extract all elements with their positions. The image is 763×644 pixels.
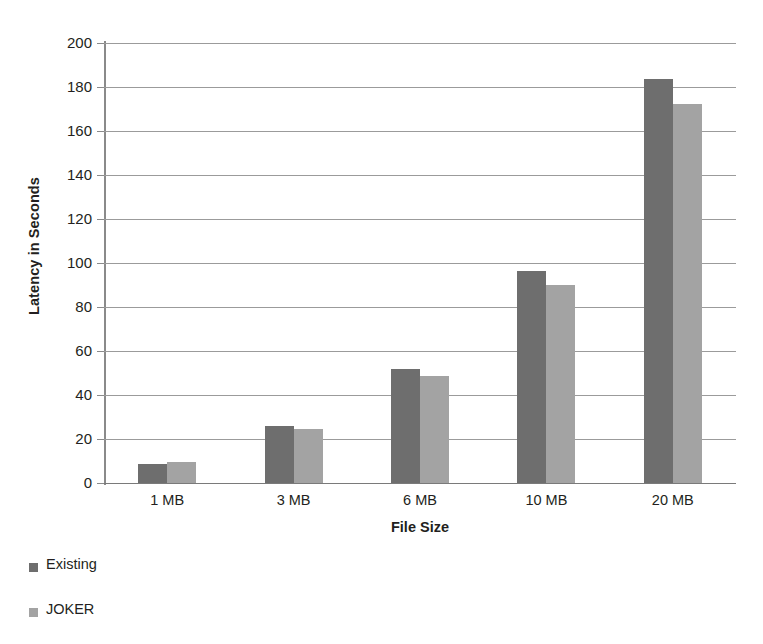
y-tick-mark-120 <box>97 219 104 220</box>
bar-existing-10mb <box>517 271 546 483</box>
legend-label-existing: Existing <box>46 556 97 572</box>
y-tick-mark-140 <box>97 175 104 176</box>
y-tick-label-0: 0 <box>48 475 92 490</box>
bar-existing-20mb <box>644 79 673 483</box>
legend-label-joker: JOKER <box>46 601 94 617</box>
x-tick-label-1mb: 1 MB <box>122 492 212 508</box>
x-tick-label-3mb: 3 MB <box>249 492 339 508</box>
gridline-0 <box>104 483 736 484</box>
bar-existing-6mb <box>391 369 420 483</box>
y-tick-label-200: 200 <box>48 35 92 50</box>
y-tick-mark-80 <box>97 307 104 308</box>
bar-joker-10mb <box>546 285 575 483</box>
y-tick-label-40: 40 <box>48 387 92 402</box>
bar-joker-6mb <box>420 376 449 483</box>
y-tick-label-80: 80 <box>48 299 92 314</box>
y-tick-mark-100 <box>97 263 104 264</box>
legend-swatch-icon-joker <box>29 608 38 617</box>
bars-layer <box>104 43 736 483</box>
y-tick-mark-200 <box>97 43 104 44</box>
bar-joker-20mb <box>673 104 702 484</box>
x-tick-label-10mb: 10 MB <box>501 492 591 508</box>
plot-area <box>104 43 736 483</box>
y-tick-label-20: 20 <box>48 431 92 446</box>
y-tick-label-160: 160 <box>48 123 92 138</box>
y-tick-mark-60 <box>97 351 104 352</box>
y-tick-mark-180 <box>97 87 104 88</box>
y-axis-tick-labels: 020406080100120140160180200 <box>40 0 92 644</box>
y-tick-mark-20 <box>97 439 104 440</box>
bar-joker-1mb <box>167 462 196 483</box>
y-tick-label-140: 140 <box>48 167 92 182</box>
y-tick-mark-0 <box>97 483 104 484</box>
bar-joker-3mb <box>294 429 323 483</box>
y-tick-label-120: 120 <box>48 211 92 226</box>
x-tick-label-20mb: 20 MB <box>628 492 718 508</box>
y-tick-label-100: 100 <box>48 255 92 270</box>
y-tick-label-60: 60 <box>48 343 92 358</box>
bar-existing-1mb <box>138 464 167 483</box>
y-tick-label-180: 180 <box>48 79 92 94</box>
x-axis-title: File Size <box>104 519 736 535</box>
y-tick-mark-40 <box>97 395 104 396</box>
bar-chart: Latency in Seconds 020406080100120140160… <box>0 0 763 644</box>
bar-existing-3mb <box>265 426 294 483</box>
legend-swatch-icon-existing <box>29 563 38 572</box>
y-tick-mark-160 <box>97 131 104 132</box>
x-tick-label-6mb: 6 MB <box>375 492 465 508</box>
x-axis-tick-labels: 1 MB3 MB6 MB10 MB20 MB <box>104 492 736 514</box>
